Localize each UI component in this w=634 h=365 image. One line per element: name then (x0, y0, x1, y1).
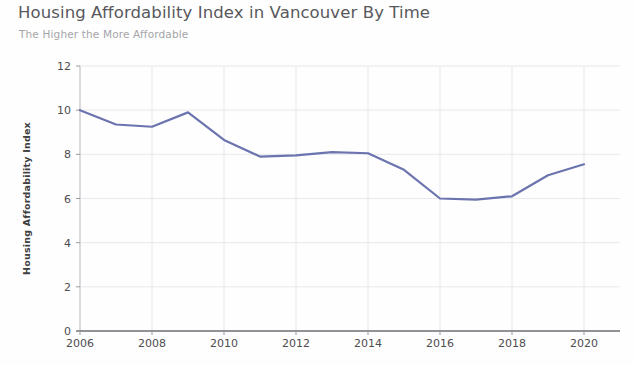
x-tick-label: 2008 (138, 337, 166, 350)
x-tick-label: 2010 (210, 337, 238, 350)
y-axis-title: Housing Affordability Index (21, 122, 32, 275)
x-tick-label: 2018 (498, 337, 526, 350)
y-tick-label: 4 (64, 237, 71, 250)
y-tick-label: 6 (64, 193, 71, 206)
x-tick-label: 2014 (354, 337, 382, 350)
y-tick-label: 8 (64, 148, 71, 161)
series-line (80, 110, 584, 199)
y-axis-ticks: 024681012 (57, 60, 80, 338)
x-tick-label: 2012 (282, 337, 310, 350)
data-series (80, 110, 584, 199)
y-tick-label: 10 (57, 104, 71, 117)
y-axis-title-label: Housing Affordability Index (21, 122, 32, 275)
chart-figure: Housing Affordability Index in Vancouver… (0, 0, 634, 365)
y-tick-label: 2 (64, 281, 71, 294)
gridlines (80, 66, 620, 331)
y-tick-label: 0 (64, 325, 71, 338)
x-tick-label: 2006 (66, 337, 94, 350)
y-tick-label: 12 (57, 60, 71, 73)
x-tick-label: 2020 (570, 337, 598, 350)
plot-area: 20062008201020122014201620182020 0246810… (0, 0, 634, 365)
x-axis-ticks: 20062008201020122014201620182020 (66, 331, 598, 350)
x-tick-label: 2016 (426, 337, 454, 350)
